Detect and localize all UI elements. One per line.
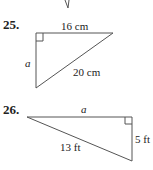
- right-angle-marker: [36, 33, 43, 41]
- problem-number-26: 26.: [3, 102, 19, 118]
- triangle-25: [36, 33, 113, 88]
- partial-figure-top: [65, 0, 69, 8]
- label-left-leg-25: a: [25, 57, 31, 69]
- problem-number-25: 25.: [3, 17, 19, 33]
- label-right-leg-26: 5 ft: [135, 133, 150, 145]
- triangle-26: [27, 117, 132, 161]
- right-angle-marker: [125, 117, 132, 124]
- label-hypotenuse-26: 13 ft: [60, 141, 80, 153]
- label-top-leg-25: 16 cm: [61, 20, 88, 32]
- label-top-leg-26: a: [81, 103, 87, 115]
- label-hypotenuse-25: 20 cm: [73, 66, 100, 78]
